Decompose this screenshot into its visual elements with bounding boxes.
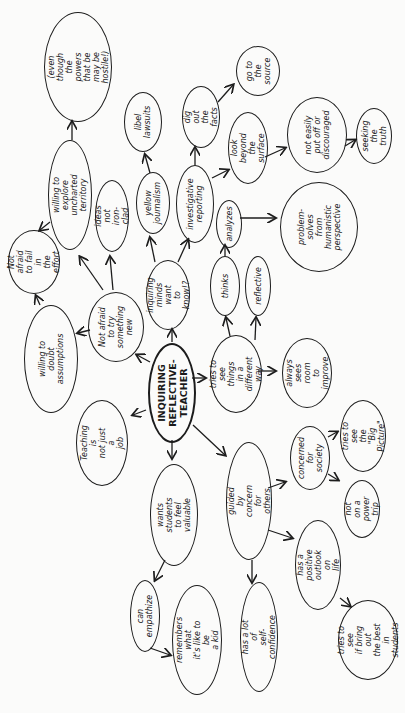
node-remembers-kid: remembers what it's like to be a kid: [172, 585, 222, 695]
node-concerned-society: concerned for society: [290, 426, 330, 490]
node-ideas-not-ironclad: ideas not iron-clad: [95, 180, 129, 252]
node-label: seeking the truth: [361, 120, 388, 151]
node-not-afraid-fail: Not afraid to fail in the effort: [8, 230, 60, 294]
node-tries-different: tries to see things in a different way: [210, 335, 262, 413]
node-dig-out-facts: dig out the facts: [182, 86, 220, 148]
node-label: always sees room to improve: [285, 357, 330, 390]
node-center: INQUIRING REFLECTIVE- TEACHER: [148, 343, 196, 443]
node-libel-lawsuits: libel lawsuits: [124, 92, 162, 152]
node-label: not on a power trip: [344, 497, 380, 522]
node-big-picture: tries to see the "Big Picture": [340, 400, 386, 472]
node-go-to-source: go to the source: [236, 46, 280, 96]
node-can-empathize: can empathize: [130, 580, 160, 652]
node-label: can empathize: [136, 595, 154, 637]
node-label: reflective: [254, 267, 263, 305]
node-label: remembers what it's like to be a kid: [175, 617, 220, 663]
node-even-though: (even though the powers that be may be h…: [44, 12, 112, 122]
node-label: has a lot of self-confidence: [241, 615, 277, 659]
node-label: problem- solves from humanistic perspect…: [297, 204, 342, 251]
node-label: Teaching is not just a job: [80, 425, 125, 461]
node-label: INQUIRING REFLECTIVE- TEACHER: [156, 359, 189, 427]
node-label: willing to doubt assumptions: [38, 334, 65, 385]
node-label: investigative reporting: [186, 178, 204, 229]
node-inquiring-minds: inquiring minds want to know!?: [146, 260, 190, 330]
node-willing-doubt: willing to doubt assumptions: [24, 305, 78, 413]
node-label: (even though the powers that be may be h…: [47, 51, 110, 84]
node-self-confidence: has a lot of self-confidence: [240, 582, 278, 692]
node-problem-solves: problem- solves from humanistic perspect…: [280, 182, 358, 272]
node-investigative-reporting: investigative reporting: [176, 165, 214, 243]
node-not-power-trip: not on a power trip: [344, 480, 380, 538]
node-label: Not afraid to fail in the effort: [7, 250, 61, 275]
node-positive-outlook: has a positive outlook on life: [295, 520, 341, 610]
node-label: look beyond the surface: [230, 133, 266, 163]
node-look-beyond: look beyond the surface: [228, 112, 268, 184]
node-label: willing to explore uncharted territory: [52, 175, 88, 216]
node-seeking-truth: seeking the truth: [356, 108, 392, 164]
node-label: tries to see things in a different way: [209, 357, 263, 391]
node-label: Not afraid to try something new: [98, 306, 134, 348]
node-label: guided by concern for others: [227, 485, 272, 517]
node-bring-out-best: tries to see if bring out the best in st…: [338, 600, 398, 680]
node-willing-explore: willing to explore uncharted territory: [48, 140, 92, 250]
node-guided-concern: guided by concern for others: [226, 442, 272, 560]
node-always-room: always sees room to improve: [282, 338, 332, 408]
node-label: tries to see if bring out the best in st…: [337, 623, 400, 658]
concept-map: INQUIRING REFLECTIVE- TEACHER Not afraid…: [0, 0, 405, 713]
node-label: go to the source: [245, 58, 272, 85]
node-label: inquiring minds want to know!?: [146, 277, 191, 312]
node-wants-students: wants students to feel valuable: [150, 464, 198, 566]
node-label: analyzes: [225, 206, 234, 241]
node-label: dig out the facts: [183, 107, 219, 126]
node-label: ideas not iron-clad: [94, 205, 130, 226]
node-label: tries to see the "Big Picture": [341, 420, 386, 452]
node-label: libel lawsuits: [134, 106, 152, 138]
node-label: yellow journalism: [144, 182, 162, 224]
node-label: wants students to feel valuable: [156, 498, 192, 533]
node-analyzes: analyzes: [216, 200, 242, 248]
node-reflective: reflective: [245, 256, 271, 316]
node-label: concerned for society: [297, 437, 324, 479]
node-thinks: thinks: [210, 256, 240, 316]
node-label: has a positive outlook on life: [296, 549, 341, 580]
node-not-afraid-new: Not afraid to try something new: [88, 292, 144, 362]
node-label: not easily put off or discouraged: [304, 110, 331, 159]
node-label: thinks: [221, 274, 230, 298]
node-teaching-not-job: Teaching is not just a job: [76, 400, 128, 486]
node-yellow-journalism: yellow journalism: [136, 172, 170, 234]
node-not-easily: not easily put off or discouraged: [287, 97, 347, 173]
